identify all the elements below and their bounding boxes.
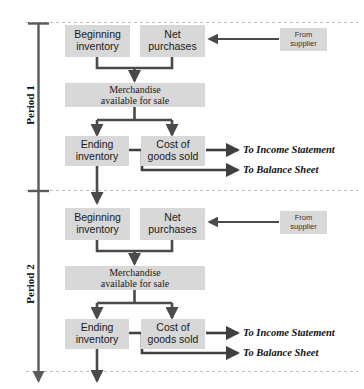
node-line-1: Merchandise bbox=[109, 267, 161, 278]
node-text: Net purchases bbox=[148, 29, 196, 53]
node-from-supplier-period-1: From supplier bbox=[280, 28, 327, 51]
period-2-label: Period 2 bbox=[24, 244, 36, 324]
node-line-2: supplier bbox=[290, 39, 316, 48]
node-cost-of-goods-sold-period-2: Cost of goods sold bbox=[141, 319, 205, 349]
node-line-1: Net bbox=[164, 28, 180, 40]
node-line-2: inventory bbox=[76, 40, 119, 52]
node-line-2: available for sale bbox=[101, 278, 169, 289]
node-net-purchases-period-1: Net purchases bbox=[140, 25, 205, 57]
node-line-1: Net bbox=[164, 211, 180, 223]
node-net-purchases-period-2: Net purchases bbox=[140, 208, 205, 240]
node-line-2: available for sale bbox=[101, 95, 169, 106]
node-text: Ending inventory bbox=[76, 322, 119, 346]
node-line-2: goods sold bbox=[148, 333, 199, 345]
node-text: From supplier bbox=[290, 214, 316, 231]
node-cost-of-goods-sold-period-1: Cost of goods sold bbox=[141, 136, 205, 166]
node-merchandise-available-period-2: Merchandise available for sale bbox=[65, 266, 205, 290]
node-text: Beginning inventory bbox=[74, 29, 121, 53]
join-to-merchandise-p1 bbox=[97, 57, 172, 68]
node-line-1: Ending bbox=[81, 321, 114, 333]
node-line-1: Beginning bbox=[74, 211, 121, 223]
output-label-balance-sheet-period-2: To Balance Sheet bbox=[243, 347, 318, 358]
node-line-2: purchases bbox=[148, 40, 196, 52]
node-line-2: inventory bbox=[76, 223, 119, 235]
node-beginning-inventory-period-2: Beginning inventory bbox=[65, 208, 130, 240]
period-1-label: Period 1 bbox=[24, 65, 36, 145]
period-spine-arrowhead bbox=[33, 371, 45, 383]
node-line-1: Beginning bbox=[74, 28, 121, 40]
node-text: Merchandise available for sale bbox=[101, 267, 169, 289]
node-line-1: Ending bbox=[81, 138, 114, 150]
node-line-2: purchases bbox=[148, 223, 196, 235]
node-line-2: inventory bbox=[76, 333, 119, 345]
join-to-merchandise-p2 bbox=[97, 240, 172, 251]
node-text: Net purchases bbox=[148, 212, 196, 236]
node-text: Cost of goods sold bbox=[148, 322, 199, 346]
node-ending-inventory-period-1: Ending inventory bbox=[65, 136, 129, 166]
node-line-2: inventory bbox=[76, 150, 119, 162]
node-line-2: goods sold bbox=[148, 150, 199, 162]
node-text: Merchandise available for sale bbox=[101, 84, 169, 106]
output-label-income-statement-period-1: To Income Statement bbox=[243, 144, 335, 155]
node-text: Beginning inventory bbox=[74, 212, 121, 236]
node-line-1: Cost of bbox=[156, 321, 189, 333]
inventory-flow-diagram: Period 1 Beginning inventory Net purchas… bbox=[0, 0, 364, 389]
node-merchandise-available-period-1: Merchandise available for sale bbox=[65, 83, 205, 107]
node-text: Ending inventory bbox=[76, 139, 119, 163]
output-label-balance-sheet-period-1: To Balance Sheet bbox=[243, 164, 318, 175]
node-line-2: supplier bbox=[290, 222, 316, 231]
node-line-1: Merchandise bbox=[109, 84, 161, 95]
node-line-1: Cost of bbox=[156, 138, 189, 150]
node-text: Cost of goods sold bbox=[148, 139, 199, 163]
output-label-income-statement-period-2: To Income Statement bbox=[243, 327, 335, 338]
node-ending-inventory-period-2: Ending inventory bbox=[65, 319, 129, 349]
node-beginning-inventory-period-1: Beginning inventory bbox=[65, 25, 130, 57]
node-text: From supplier bbox=[290, 31, 316, 48]
node-from-supplier-period-2: From supplier bbox=[280, 211, 327, 234]
